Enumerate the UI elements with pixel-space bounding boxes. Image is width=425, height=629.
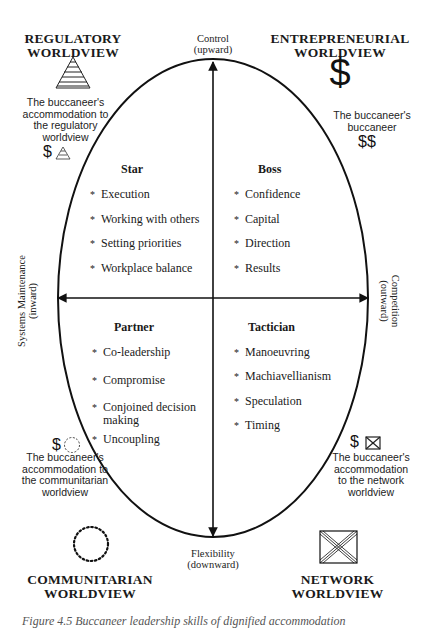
tactician-quadrant-title: Tactician xyxy=(248,320,295,335)
regulatory-accommodation-note: The buccaneer's accommodation to the reg… xyxy=(8,97,123,143)
partner-quadrant-title: Partner xyxy=(114,320,154,335)
boss-item: *Capital xyxy=(234,213,280,226)
star-item: *Setting priorities xyxy=(90,237,181,250)
tactician-item: *Timing xyxy=(234,419,280,432)
boss-item: *Direction xyxy=(234,237,290,250)
boss-item: *Results xyxy=(234,262,280,275)
axis-label-right: Competition (outward) xyxy=(379,256,401,346)
communitarian-worldview-title: COMMUNITARIAN WORLDVIEW xyxy=(20,573,160,601)
striped-pyramid-icon xyxy=(56,57,90,88)
tactician-item: *Speculation xyxy=(234,395,302,408)
network-dollar-icon: $ xyxy=(350,434,359,450)
star-quadrant-title: Star xyxy=(121,162,143,177)
partner-item: *Uncoupling xyxy=(92,433,160,446)
star-item: *Workplace balance xyxy=(90,262,192,275)
network-accommodation-note: The buccaneer's accommodation to the net… xyxy=(320,452,422,498)
axis-label-left: Systems Maintenance (inward) xyxy=(16,241,38,361)
tactician-item: *Machiavellianism xyxy=(234,370,331,383)
partner-item: *Compromise xyxy=(92,374,165,387)
boss-quadrant-title: Boss xyxy=(258,162,281,177)
entrepreneurial-accommodation-note: The buccaneer's buccaneer xyxy=(322,110,422,133)
boss-item: *Confidence xyxy=(234,188,300,201)
communitarian-accommodation-note: The buccaneer's accommodation to the com… xyxy=(10,452,120,498)
partner-item: *Co-leadership xyxy=(92,346,170,359)
axis-label-top: Control (upward) xyxy=(178,33,248,55)
tactician-item: *Manoeuvring xyxy=(234,346,310,359)
small-pyramid-icon xyxy=(56,147,70,159)
star-item: *Execution xyxy=(90,188,150,201)
dotted-circle-icon xyxy=(74,527,108,561)
star-item: *Working with others xyxy=(90,213,199,226)
partner-item-continued: making xyxy=(103,414,139,426)
network-worldview-title: NETWORK WORLDVIEW xyxy=(290,573,385,601)
small-crossed-box-icon xyxy=(366,437,380,449)
entrepreneurial-dollar-icon: $$ xyxy=(358,134,376,150)
dollar-sign-icon: $ xyxy=(322,52,358,94)
crossed-box-icon xyxy=(320,531,357,563)
regulatory-dollar-icon: $ xyxy=(43,144,52,160)
figure-caption: Figure 4.5 Buccaneer leadership skills o… xyxy=(22,614,346,629)
regulatory-worldview-title: REGULATORY WORLDVIEW xyxy=(18,32,128,60)
axis-label-bottom: Flexibility (downward) xyxy=(170,548,256,570)
